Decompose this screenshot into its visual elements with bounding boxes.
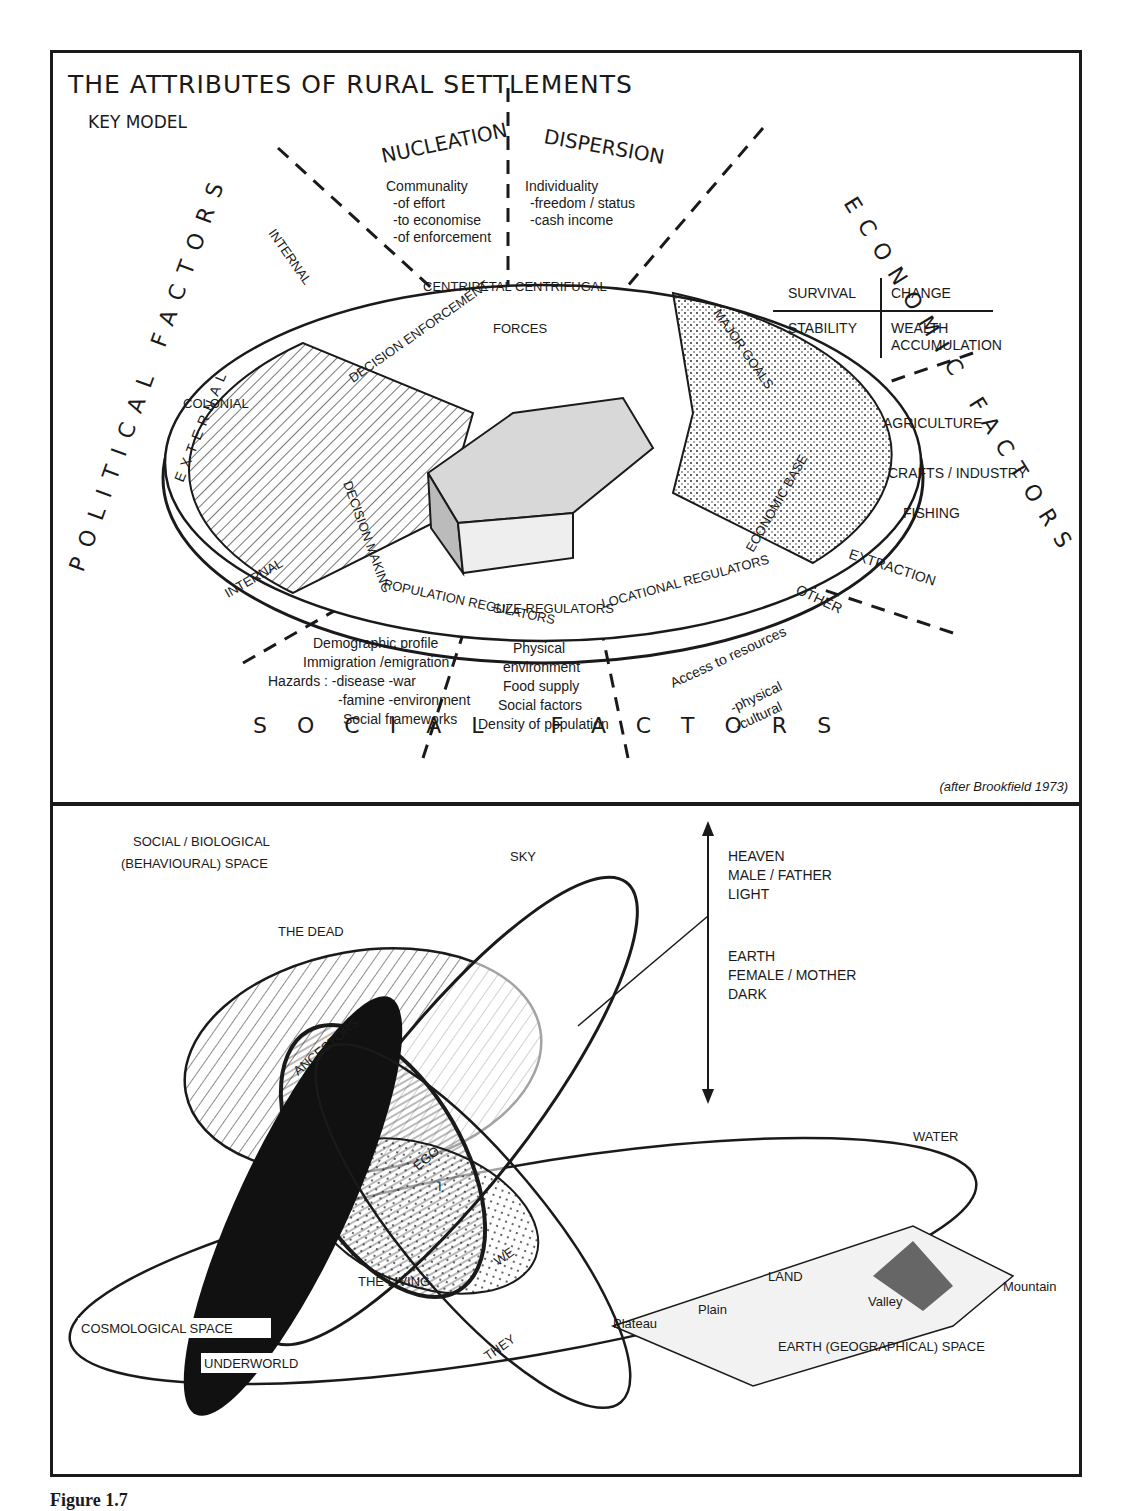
svg-text:-famine -environment: -famine -environment xyxy=(338,692,470,708)
svg-text:Demographic profile: Demographic profile xyxy=(313,635,438,651)
rural-settlements-panel: THE ATTRIBUTES OF RURAL SETTLEMENTS KEY … xyxy=(50,50,1082,805)
size-notes: Physical environment Food supply Social … xyxy=(478,640,609,732)
svg-text:SKY: SKY xyxy=(510,849,536,864)
svg-text:FEMALE / MOTHER: FEMALE / MOTHER xyxy=(728,967,856,983)
svg-text:Social factors: Social factors xyxy=(498,697,582,713)
svg-text:Individuality: Individuality xyxy=(525,178,598,194)
svg-text:WEALTH: WEALTH xyxy=(891,320,948,336)
svg-text:-cash income: -cash income xyxy=(530,212,613,228)
svg-text:DARK: DARK xyxy=(728,986,768,1002)
svg-text:-freedom / status: -freedom / status xyxy=(530,195,635,211)
forces-label: FORCES xyxy=(493,321,548,336)
svg-text:-to economise: -to economise xyxy=(393,212,481,228)
svg-text:AGRICULTURE: AGRICULTURE xyxy=(883,415,982,431)
svg-text:SURVIVAL: SURVIVAL xyxy=(788,285,856,301)
svg-text:EARTH (GEOGRAPHICAL) SPACE: EARTH (GEOGRAPHICAL) SPACE xyxy=(778,1339,985,1354)
heaven-labels: HEAVEN MALE / FATHER LIGHT xyxy=(728,848,832,902)
svg-text:Density of population: Density of population xyxy=(478,716,609,732)
landscape xyxy=(613,1226,1013,1386)
svg-text:Social frameworks: Social frameworks xyxy=(343,711,457,727)
credit-note: (after Brookfield 1973) xyxy=(939,779,1068,794)
svg-text:WATER: WATER xyxy=(913,1129,959,1144)
svg-text:SIZE REGULATORS: SIZE REGULATORS xyxy=(493,601,614,616)
arrow-up-icon xyxy=(702,821,714,836)
dispersion-notes: Individuality -freedom / status -cash in… xyxy=(525,178,635,228)
arrow-down-icon xyxy=(702,1089,714,1104)
svg-text:Immigration /emigration: Immigration /emigration xyxy=(303,654,449,670)
svg-text:OTHER: OTHER xyxy=(794,581,845,616)
svg-text:MALE / FATHER: MALE / FATHER xyxy=(728,867,832,883)
social-space-label: SOCIAL / BIOLOGICAL (BEHAVIOURAL) SPACE xyxy=(121,834,270,871)
svg-text:I: I xyxy=(438,1179,442,1194)
cosmological-space-panel: SOCIAL / BIOLOGICAL (BEHAVIOURAL) SPACE … xyxy=(50,803,1082,1477)
svg-text:Hazards : -disease -war: Hazards : -disease -war xyxy=(268,673,416,689)
svg-text:SOCIAL / BIOLOGICAL: SOCIAL / BIOLOGICAL xyxy=(133,834,270,849)
earth-labels: EARTH FEMALE / MOTHER DARK xyxy=(728,948,856,1002)
cosmological-label: COSMOLOGICAL SPACE xyxy=(81,1321,233,1336)
svg-text:Mountain: Mountain xyxy=(1003,1279,1056,1294)
svg-text:Valley: Valley xyxy=(868,1294,903,1309)
panel-subtitle: KEY MODEL xyxy=(88,112,188,132)
svg-text:(BEHAVIOURAL) SPACE: (BEHAVIOURAL) SPACE xyxy=(121,856,268,871)
svg-text:Plateau: Plateau xyxy=(613,1316,657,1331)
svg-text:EARTH: EARTH xyxy=(728,948,775,964)
svg-text:Communality: Communality xyxy=(386,178,468,194)
nucleation-notes: Communality -of effort -to economise -of… xyxy=(386,178,491,245)
space-diagram: SOCIAL / BIOLOGICAL (BEHAVIOURAL) SPACE … xyxy=(53,806,1079,1474)
svg-text:environment: environment xyxy=(503,659,580,675)
centrifugal-label: CENTRIFUGAL xyxy=(515,279,607,294)
svg-text:STABILITY: STABILITY xyxy=(788,320,858,336)
svg-text:INTERNAL: INTERNAL xyxy=(266,226,315,287)
svg-text:CRAFTS / INDUSTRY: CRAFTS / INDUSTRY xyxy=(888,465,1028,481)
svg-text:LIGHT: LIGHT xyxy=(728,886,770,902)
svg-text:CHANGE: CHANGE xyxy=(891,285,951,301)
figure-caption: Figure 1.7 xyxy=(50,1490,128,1511)
svg-text:Plain: Plain xyxy=(698,1302,727,1317)
svg-text:ACCUMULATION: ACCUMULATION xyxy=(891,337,1002,353)
svg-text:Physical: Physical xyxy=(513,640,565,656)
svg-text:THE LIVING: THE LIVING xyxy=(358,1274,430,1289)
svg-text:COLONIAL: COLONIAL xyxy=(183,396,249,411)
underworld-label: UNDERWORLD xyxy=(204,1356,298,1371)
svg-text:THE DEAD: THE DEAD xyxy=(278,924,344,939)
dispersion-label: DISPERSION xyxy=(542,124,666,169)
svg-text:-of enforcement: -of enforcement xyxy=(393,229,491,245)
nucleation-label: NUCLEATION xyxy=(379,118,509,168)
key-model-diagram: THE ATTRIBUTES OF RURAL SETTLEMENTS KEY … xyxy=(53,53,1079,802)
svg-text:FISHING: FISHING xyxy=(903,505,960,521)
svg-text:Food supply: Food supply xyxy=(503,678,579,694)
svg-text:LAND: LAND xyxy=(768,1269,803,1284)
svg-text:-of effort: -of effort xyxy=(393,195,445,211)
svg-text:HEAVEN: HEAVEN xyxy=(728,848,785,864)
panel-title: THE ATTRIBUTES OF RURAL SETTLEMENTS xyxy=(67,70,633,99)
